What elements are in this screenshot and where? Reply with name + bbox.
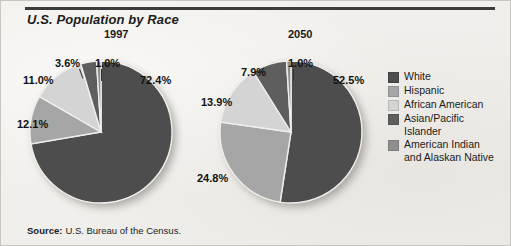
source-text: U.S. Bureau of the Census. (65, 225, 181, 236)
chart-figure: U.S. Population by Race 1997 72.4% 11.0%… (0, 0, 511, 246)
pie-label-1997-hispanic: 11.0% (23, 74, 54, 86)
pie-label-2050-hispanic: 24.8% (197, 172, 228, 184)
pie-title-2050: 2050 (288, 28, 312, 40)
source-note: Source:U.S. Bureau of the Census. (27, 225, 181, 236)
legend-swatch-white (388, 72, 399, 83)
legend-swatch-asian-pacific-islander (388, 114, 399, 125)
pie-label-2050-asian-pacific-islander: 7.9% (241, 66, 266, 78)
legend-label-asian-pacific-islander: Asian/PacificIslander (404, 112, 464, 137)
pie-slice (220, 122, 291, 202)
pie-label-1997-asian-pacific-islander: 3.6% (55, 57, 80, 69)
pie-label-1997-white: 72.4% (140, 74, 171, 86)
pie-label-2050-american-indian: 1.0% (288, 57, 313, 69)
title-rule (25, 7, 495, 10)
pie-label-1997-american-indian: 1.0% (95, 57, 120, 69)
legend-label-hispanic: Hispanic (404, 84, 444, 97)
legend-swatch-african-american (388, 100, 399, 111)
leader-line-2050-american-indian (293, 69, 294, 81)
pie-label-1997-african-american: 12.1% (17, 118, 48, 130)
legend-item-african-american[interactable]: African American (388, 98, 506, 111)
legend-item-hispanic[interactable]: Hispanic (388, 84, 506, 97)
legend-label-american-indian: American Indianand Alaskan Native (404, 138, 494, 163)
source-label: Source: (27, 225, 62, 236)
legend-item-white[interactable]: White (388, 70, 506, 83)
leader-line-1997-american-indian (101, 69, 102, 81)
pie-label-2050-african-american: 13.9% (201, 96, 232, 108)
page-title: U.S. Population by Race (27, 12, 179, 27)
pie-label-2050-white: 52.5% (333, 74, 364, 86)
pie-title-1997: 1997 (104, 28, 128, 40)
legend-item-american-indian[interactable]: American Indianand Alaskan Native (388, 138, 506, 163)
legend-item-asian-pacific-islander[interactable]: Asian/PacificIslander (388, 112, 506, 137)
legend-swatch-hispanic (388, 86, 399, 97)
legend-label-white: White (404, 70, 431, 83)
legend: White Hispanic African American Asian/Pa… (388, 70, 506, 164)
legend-swatch-american-indian (388, 140, 399, 151)
legend-label-african-american: African American (404, 98, 483, 111)
